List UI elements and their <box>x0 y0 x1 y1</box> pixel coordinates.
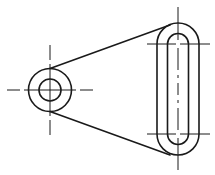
technical-drawing <box>0 0 215 175</box>
left-boss-centerlines <box>7 45 93 135</box>
lower-tangent-line <box>50 112 170 156</box>
upper-tangent-line <box>50 25 170 69</box>
drawing-svg <box>0 0 215 175</box>
